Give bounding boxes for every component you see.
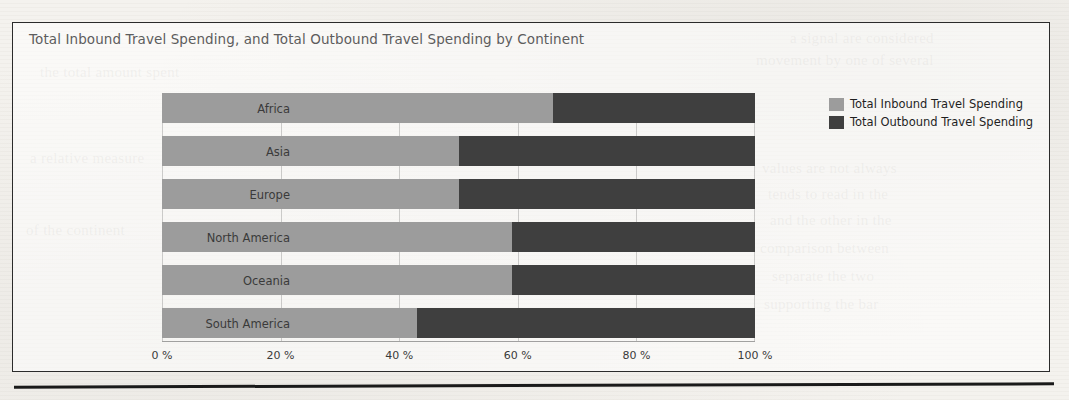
bar-segment-inbound[interactable] (162, 93, 553, 123)
gridline-0 (162, 93, 163, 341)
x-tick-label-80: 80 % (622, 349, 650, 362)
bar-row[interactable] (162, 136, 755, 166)
bar-row[interactable] (162, 93, 755, 123)
gridline-100 (754, 93, 755, 341)
legend-label-inbound: Total Inbound Travel Spending (850, 97, 1023, 111)
bar-segment-inbound[interactable] (162, 265, 512, 295)
plot-area (162, 93, 755, 341)
bar-segment-inbound[interactable] (162, 179, 459, 209)
legend-item-inbound[interactable]: Total Inbound Travel Spending (829, 97, 1033, 111)
category-label-north-america: North America (207, 231, 290, 245)
category-label-asia: Asia (266, 145, 290, 159)
bar-segment-outbound[interactable] (512, 265, 755, 295)
bar-segment-inbound[interactable] (162, 136, 459, 166)
legend-swatch-outbound (829, 116, 844, 129)
gridline-20 (281, 93, 282, 341)
category-label-oceania: Oceania (243, 274, 290, 288)
category-label-south-america: South America (205, 317, 290, 331)
chart-title: Total Inbound Travel Spending, and Total… (29, 31, 584, 47)
bar-segment-outbound[interactable] (459, 136, 756, 166)
chart-legend: Total Inbound Travel Spending Total Outb… (829, 97, 1033, 133)
x-axis-line (162, 341, 755, 342)
chart-container: Total Inbound Travel Spending, and Total… (12, 22, 1050, 372)
x-tick-label-20: 20 % (267, 349, 295, 362)
x-tick-label-100: 100 % (738, 349, 773, 362)
x-tick-label-0: 0 % (152, 349, 173, 362)
bar-segment-outbound[interactable] (512, 222, 755, 252)
gridline-40 (399, 93, 400, 341)
x-tick-label-40: 40 % (385, 349, 413, 362)
legend-item-outbound[interactable]: Total Outbound Travel Spending (829, 115, 1033, 129)
gridline-60 (518, 93, 519, 341)
bar-segment-outbound[interactable] (417, 308, 755, 338)
gridline-80 (636, 93, 637, 341)
legend-swatch-inbound (829, 98, 844, 111)
category-label-europe: Europe (250, 188, 290, 202)
legend-label-outbound: Total Outbound Travel Spending (850, 115, 1033, 129)
category-label-africa: Africa (257, 102, 290, 116)
page-horizontal-rule (14, 382, 1054, 388)
bar-segment-outbound[interactable] (459, 179, 756, 209)
bar-segment-outbound[interactable] (553, 93, 755, 123)
x-tick-label-60: 60 % (504, 349, 532, 362)
